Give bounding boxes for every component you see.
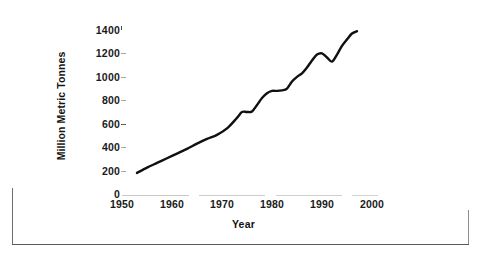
y-tick-mark-200 bbox=[121, 171, 126, 172]
series-line-0 bbox=[137, 31, 357, 173]
series-plot bbox=[0, 0, 481, 259]
y-tick-mark-1200 bbox=[121, 53, 126, 54]
y-tick-mark-400 bbox=[121, 147, 126, 148]
y-tick-mark-1000 bbox=[121, 77, 126, 78]
y-tick-mark-800 bbox=[121, 100, 126, 101]
y-tick-mark-600 bbox=[121, 124, 126, 125]
line-chart: Million Metric Tonnes 020040060080010001… bbox=[0, 0, 481, 259]
y-tick-mark-1400 bbox=[121, 26, 122, 30]
